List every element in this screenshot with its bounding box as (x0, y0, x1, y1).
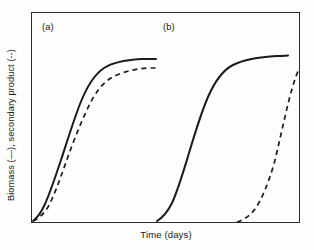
plot-curves (31, 12, 300, 223)
curve-panel-b-secondary-product (237, 69, 299, 222)
y-axis-label: Biomass (—), secondary product (--) (0, 0, 22, 250)
panel-label-a: (a) (42, 21, 54, 32)
curve-panel-a-secondary-product (33, 68, 157, 221)
x-axis-label: Time (days) (31, 229, 301, 240)
curve-panel-b-biomass (157, 56, 288, 222)
panel-label-b: (b) (163, 21, 175, 32)
curve-panel-a-biomass (33, 59, 156, 221)
figure-root: Biomass (—), secondary product (--) (a) … (0, 0, 314, 250)
